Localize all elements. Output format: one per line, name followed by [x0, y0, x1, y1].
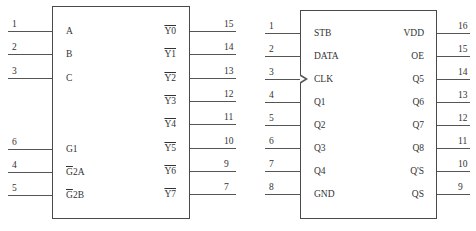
pin-line-8 — [265, 194, 300, 195]
pin-number: 5 — [269, 113, 274, 123]
pin-line-9 — [437, 194, 470, 195]
pin-label: Q5 — [412, 74, 424, 85]
pin-line-9 — [190, 171, 236, 172]
pin-label: C — [66, 73, 72, 84]
pin-label: G1 — [66, 144, 78, 155]
pin-number: 13 — [458, 90, 468, 100]
pin-line-7 — [190, 194, 236, 195]
pin-label: G2B — [66, 190, 84, 201]
pin-line-12 — [437, 125, 470, 126]
pin-label: Q'S — [410, 166, 424, 177]
pin-number: 12 — [224, 89, 234, 99]
pin-line-5 — [8, 195, 52, 196]
decoder-3to8-body — [52, 6, 190, 219]
pin-number: 9 — [224, 159, 229, 169]
pin-label: Y1 — [164, 49, 176, 60]
pin-label: DATA — [314, 51, 339, 62]
pin-number: 4 — [269, 90, 274, 100]
pin-label: QS — [412, 189, 424, 200]
pin-number: 6 — [269, 136, 274, 146]
pin-number: 5 — [12, 183, 17, 193]
pin-number: 3 — [12, 66, 17, 76]
pin-line-4 — [265, 102, 300, 103]
pin-line-11 — [190, 124, 236, 125]
pin-label: GND — [314, 189, 335, 200]
pin-number: 10 — [224, 136, 234, 146]
pin-number: 15 — [458, 44, 468, 54]
pin-number: 11 — [458, 136, 467, 146]
pin-line-15 — [437, 56, 470, 57]
pin-label: Q7 — [412, 120, 424, 131]
pin-label: Q6 — [412, 97, 424, 108]
pin-line-3 — [8, 78, 52, 79]
pin-number: 8 — [269, 182, 274, 192]
pin-label: Y2 — [164, 73, 176, 84]
pin-line-3 — [265, 79, 300, 80]
pin-number: 7 — [269, 159, 274, 169]
pin-label: CLK — [314, 74, 333, 85]
pin-label: Q2 — [314, 120, 326, 131]
pin-line-14 — [437, 79, 470, 80]
pin-number: 6 — [12, 137, 17, 147]
pin-label: Y7 — [164, 189, 176, 200]
pin-line-13 — [437, 102, 470, 103]
pin-number: 16 — [458, 21, 468, 31]
pin-number: 14 — [224, 42, 234, 52]
pin-label: STB — [314, 28, 331, 39]
pin-label: G2A — [66, 167, 85, 178]
pin-number: 15 — [224, 19, 234, 29]
pin-label: OE — [411, 51, 424, 62]
pin-number: 1 — [269, 21, 274, 31]
pin-label: Q4 — [314, 166, 326, 177]
pin-line-13 — [190, 78, 236, 79]
pin-line-5 — [265, 125, 300, 126]
pin-line-6 — [8, 149, 52, 150]
pin-line-6 — [265, 148, 300, 149]
pin-number: 10 — [458, 159, 468, 169]
pin-label: Q1 — [314, 97, 326, 108]
pin-number: 2 — [269, 44, 274, 54]
pin-line-16 — [437, 33, 470, 34]
pin-number: 13 — [224, 66, 234, 76]
pin-label: Y0 — [164, 26, 176, 37]
pin-label: VDD — [403, 28, 424, 39]
diagram-canvas: 1A2B3C6G14G2A5G2B15Y014Y113Y212Y311Y410Y… — [0, 0, 476, 231]
pin-label: Y5 — [164, 143, 176, 154]
pin-number: 3 — [269, 67, 274, 77]
pin-label: Y4 — [164, 119, 176, 130]
pin-number: 4 — [12, 160, 17, 170]
pin-number: 7 — [224, 182, 229, 192]
pin-number: 11 — [224, 112, 233, 122]
pin-label: A — [66, 26, 73, 37]
pin-line-2 — [8, 54, 52, 55]
pin-line-7 — [265, 171, 300, 172]
pin-line-10 — [437, 171, 470, 172]
pin-label: B — [66, 49, 72, 60]
pin-label: Q3 — [314, 143, 326, 154]
pin-line-1 — [265, 33, 300, 34]
pin-line-11 — [437, 148, 470, 149]
pin-line-10 — [190, 148, 236, 149]
pin-label: Y3 — [164, 96, 176, 107]
pin-line-14 — [190, 54, 236, 55]
pin-number: 14 — [458, 67, 468, 77]
pin-line-15 — [190, 31, 236, 32]
pin-number: 1 — [12, 19, 17, 29]
shift-register-4094-body — [300, 10, 437, 219]
pin-label: Y6 — [164, 166, 176, 177]
pin-number: 12 — [458, 113, 468, 123]
pin-number: 9 — [458, 182, 463, 192]
pin-number: 2 — [12, 42, 17, 52]
pin-line-1 — [8, 31, 52, 32]
pin-line-12 — [190, 101, 236, 102]
pin-label: Q8 — [412, 143, 424, 154]
pin-line-4 — [8, 172, 52, 173]
clock-input-icon-inner — [300, 76, 305, 82]
pin-line-2 — [265, 56, 300, 57]
